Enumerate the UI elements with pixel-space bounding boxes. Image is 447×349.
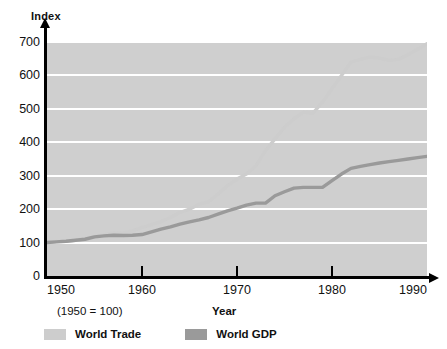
- x-tick-mark-1970: [236, 266, 238, 277]
- chart-caption: (1950 = 100): [57, 305, 123, 317]
- x-axis-arrow-icon: [429, 273, 439, 283]
- legend-label: World GDP: [216, 328, 276, 340]
- y-tick-label-400: 400: [0, 136, 44, 149]
- chart-figure: Index 0100200300400500600700 19501960197…: [0, 0, 447, 349]
- legend-swatch-icon: [185, 329, 207, 340]
- series-lines: [47, 42, 427, 276]
- legend-item-world-gdp[interactable]: World GDP: [185, 328, 276, 340]
- y-tick-label-700: 700: [0, 36, 44, 49]
- y-tick-label-600: 600: [0, 69, 44, 82]
- series-line-world-trade: [47, 44, 427, 243]
- x-tick-label-1950: 1950: [47, 284, 75, 297]
- legend-item-world-trade[interactable]: World Trade: [44, 328, 141, 340]
- y-axis-tick-labels: 0100200300400500600700: [0, 0, 44, 349]
- y-tick-label-200: 200: [0, 203, 44, 216]
- x-tick-label-1980: 1980: [318, 284, 346, 297]
- x-axis-title: Year: [212, 305, 236, 317]
- x-tick-mark-1980: [331, 266, 333, 277]
- chart-legend: World TradeWorld GDP: [44, 328, 277, 340]
- x-tick-label-1960: 1960: [128, 284, 156, 297]
- y-tick-label-100: 100: [0, 236, 44, 249]
- y-tick-label-500: 500: [0, 103, 44, 116]
- y-tick-label-0: 0: [0, 270, 44, 283]
- x-tick-label-1990: 1990: [399, 284, 427, 297]
- plot-area: [47, 42, 427, 276]
- x-tick-label-1970: 1970: [223, 284, 251, 297]
- y-tick-label-300: 300: [0, 169, 44, 182]
- x-tick-mark-1960: [141, 266, 143, 277]
- series-line-world-gdp: [47, 156, 427, 242]
- legend-label: World Trade: [75, 328, 141, 340]
- legend-swatch-icon: [44, 329, 66, 340]
